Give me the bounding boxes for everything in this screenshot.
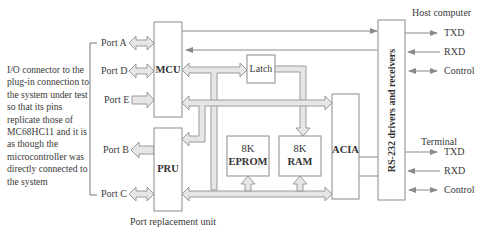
terminal-signal-lines — [405, 152, 440, 190]
system-buses — [182, 63, 332, 201]
host-txd-label: TXD — [444, 27, 465, 39]
acia-label: ACIA — [332, 144, 359, 155]
ram-label: RAM — [279, 156, 321, 167]
eprom-label: EPROM — [227, 156, 269, 167]
port-b-label: Port B — [103, 144, 129, 156]
terminal-txd-label: TXD — [444, 146, 465, 158]
host-control-label: Control — [444, 65, 475, 77]
connector-description: I/O connector to the plug-in connection … — [7, 64, 95, 188]
port-e-label: Port E — [104, 94, 129, 106]
terminal-rxd-label: RXD — [444, 165, 465, 177]
host-computer-label: Host computer — [412, 7, 471, 19]
port-a-label: Port A — [101, 37, 127, 49]
mcu-label: MCU — [154, 64, 182, 75]
host-signal-lines — [405, 33, 440, 71]
pru-label: PRU — [154, 163, 182, 174]
ram-size-label: 8K — [279, 143, 321, 154]
host-rxd-label: RXD — [444, 46, 465, 58]
terminal-control-label: Control — [444, 184, 475, 196]
eprom-size-label: 8K — [227, 143, 269, 154]
port-d-label: Port D — [101, 65, 127, 77]
latch-label: Latch — [247, 63, 275, 75]
port-arrows — [129, 36, 154, 201]
rs232-label: RS-232 drivers and receivers — [386, 21, 399, 201]
port-c-label: Port C — [101, 188, 127, 200]
diagram-caption: Port replacement unit — [130, 216, 216, 228]
